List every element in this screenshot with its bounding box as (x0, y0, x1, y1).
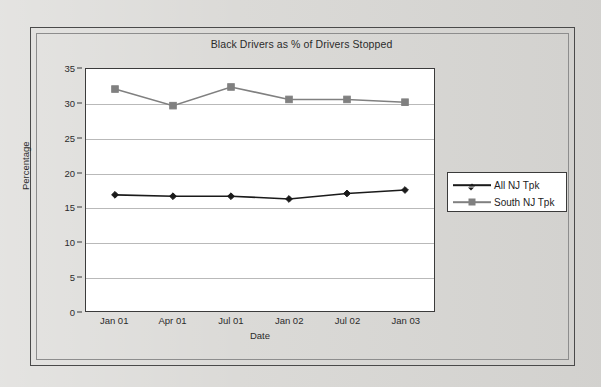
series-line (115, 190, 405, 199)
data-point-marker (112, 86, 119, 93)
x-axis-tick-label: Jul 01 (218, 315, 243, 326)
y-axis-tick-label: 5 (70, 272, 75, 283)
data-point-marker (402, 187, 409, 194)
x-axis-tick-label: Jan 02 (275, 315, 304, 326)
y-axis-tick-label: 25 (64, 132, 75, 143)
legend-swatch (453, 179, 491, 191)
data-point-marker (344, 190, 351, 197)
legend-label: South NJ Tpk (491, 197, 554, 208)
x-axis-tick-labels: Jan 01Apr 01Jul 01Jan 02Jul 02Jan 03 (85, 315, 435, 331)
x-axis-tick-label: Jul 02 (335, 315, 360, 326)
y-axis-tick-mark (77, 277, 82, 278)
y-axis-tick-mark (77, 242, 82, 243)
legend-item-south-nj-tpk[interactable]: South NJ Tpk (453, 194, 554, 210)
data-point-marker (112, 191, 119, 198)
square-marker-icon (469, 199, 476, 206)
data-point-marker (228, 193, 235, 200)
series-line (115, 87, 405, 106)
x-axis-title: Date (85, 330, 435, 341)
y-axis-tick-label: 10 (64, 237, 75, 248)
legend-label: All NJ Tpk (491, 180, 539, 191)
y-axis-tick-mark (77, 68, 82, 69)
chart-title: Black Drivers as % of Drivers Stopped (30, 38, 573, 50)
y-axis-tick-mark (77, 207, 82, 208)
y-axis-tick-label: 20 (64, 167, 75, 178)
plot-area (85, 68, 435, 312)
y-axis-tick-labels: 05101520253035 (30, 68, 82, 312)
x-axis-tick-label: Jan 01 (100, 315, 129, 326)
x-axis-tick-label: Jan 03 (392, 315, 421, 326)
data-point-marker (286, 196, 293, 203)
chart-legend[interactable]: All NJ TpkSouth NJ Tpk (447, 172, 567, 212)
y-axis-tick-mark (77, 137, 82, 138)
y-axis-tick-mark (77, 172, 82, 173)
legend-swatch (453, 196, 491, 208)
data-point-marker (402, 99, 409, 106)
data-point-marker (170, 102, 177, 109)
y-axis-tick-label: 30 (64, 97, 75, 108)
y-axis-tick-mark (77, 312, 82, 313)
x-axis-tick-label: Apr 01 (159, 315, 187, 326)
legend-item-all-nj-tpk[interactable]: All NJ Tpk (453, 177, 539, 193)
series-layer (86, 69, 434, 311)
diamond-marker-icon (469, 184, 475, 187)
data-point-marker (344, 96, 351, 103)
line-chart: Black Drivers as % of Drivers Stopped Pe… (30, 27, 573, 364)
y-axis-tick-mark (77, 102, 82, 103)
data-point-marker (286, 96, 293, 103)
data-point-marker (170, 193, 177, 200)
y-axis-tick-label: 35 (64, 63, 75, 74)
y-axis-tick-label: 15 (64, 202, 75, 213)
y-axis-tick-label: 0 (70, 307, 75, 318)
data-point-marker (228, 84, 235, 91)
